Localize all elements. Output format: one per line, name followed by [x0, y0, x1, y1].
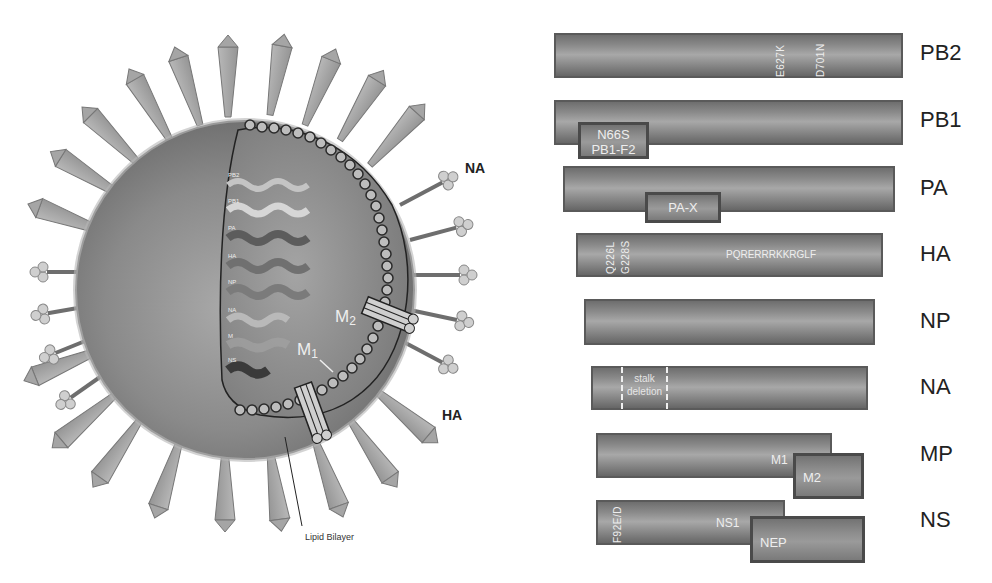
label-ha: HA	[442, 407, 462, 423]
svg-text:NS: NS	[228, 357, 236, 363]
mutation-f92e-d: F92E/D	[612, 503, 623, 543]
protein-nep: NEP	[760, 535, 787, 550]
svg-text:HA: HA	[228, 253, 236, 259]
svg-text:NP: NP	[228, 279, 236, 285]
segment-label-na: NA	[920, 374, 951, 400]
svg-text:PA: PA	[228, 225, 236, 231]
protein-m2: M2	[803, 470, 821, 485]
svg-text:NA: NA	[228, 307, 236, 313]
svg-text:PB2: PB2	[228, 172, 240, 178]
segment-label-ns: NS	[920, 507, 951, 533]
segment-label-pb1: PB1	[920, 107, 962, 133]
pa-x-box: PA-X	[645, 192, 721, 223]
svg-text:PB1: PB1	[228, 198, 240, 204]
mutation-g228s: G228S	[620, 236, 631, 274]
nep-box: NEP	[750, 516, 865, 563]
protein-pa-x: PA-X	[668, 200, 697, 215]
segment-label-pa: PA	[920, 175, 948, 201]
segment-label-np: NP	[920, 308, 951, 334]
mutation-n66s: N66S	[581, 127, 646, 142]
label-na: NA	[465, 160, 485, 176]
segment-label-mp: MP	[920, 441, 953, 467]
segment-bar-pb2	[554, 33, 903, 78]
stalk-deletion-label: stalk deletion	[623, 372, 666, 398]
svg-text:M: M	[228, 333, 233, 339]
mutation-e627k: E627K	[775, 37, 786, 77]
m2-box: M2	[793, 453, 864, 499]
stalk-deletion-end-line	[666, 367, 668, 409]
cleavage-site-sequence: PQRERRRKKRGLF	[726, 249, 816, 260]
segment-label-ha: HA	[920, 241, 951, 267]
pb1-f2-box: N66S PB1-F2	[578, 122, 649, 159]
mutation-q226l: Q226L	[605, 236, 616, 274]
label-lipid-bilayer: Lipid Bilayer	[305, 532, 354, 542]
protein-ns1: NS1	[716, 516, 739, 530]
mutation-d701n: D701N	[815, 37, 826, 77]
protein-pb1-f2: PB1-F2	[581, 142, 646, 157]
segment-bar-pa	[563, 166, 895, 212]
influenza-virion-diagram: PB2 PB1 PA HA NP NA M NS NA HA M2 M1 Lip…	[0, 0, 540, 583]
protein-m1: M1	[771, 453, 788, 467]
segment-bar-np	[584, 299, 875, 345]
segment-label-pb2: PB2	[920, 40, 962, 66]
